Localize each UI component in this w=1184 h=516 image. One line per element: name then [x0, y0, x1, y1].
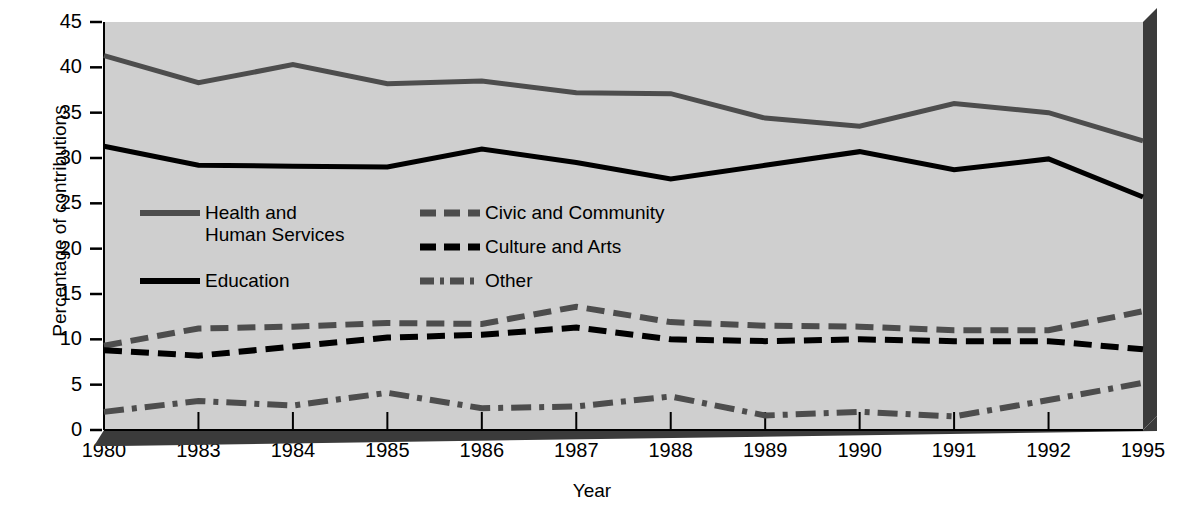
legend-label: Health and Human Services: [205, 202, 344, 246]
legend-label: Culture and Arts: [485, 236, 621, 258]
plot-area: [0, 0, 1184, 516]
chart-figure: Percentage of contributions Year 0510152…: [0, 0, 1184, 516]
line-chart-svg: [0, 0, 1184, 516]
legend-label: Civic and Community: [485, 202, 665, 224]
legend-label: Education: [205, 270, 290, 292]
plot-shadow-right: [1143, 8, 1157, 430]
legend-label: Other: [485, 270, 533, 292]
